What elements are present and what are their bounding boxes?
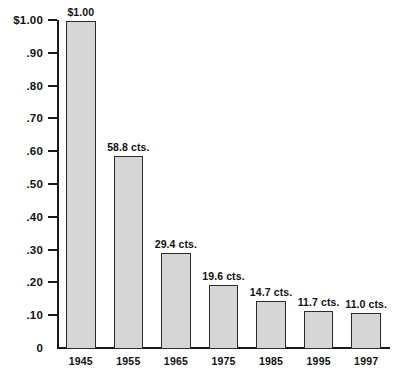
x-axis-tick-label: 1995: [307, 355, 331, 367]
y-axis-tick-label: .30: [26, 243, 48, 257]
bar: [351, 313, 380, 349]
bar: [161, 253, 190, 349]
y-axis-tick: .60: [0, 144, 57, 158]
y-axis-tick-label: .90: [26, 46, 48, 60]
bar-group: 11.0 cts.: [351, 20, 380, 349]
bar: [66, 21, 95, 349]
y-axis-tick-label: .70: [26, 111, 48, 125]
x-axis-tick-label: 1975: [211, 355, 235, 367]
bar-group: 58.8 cts.: [114, 20, 143, 349]
y-axis-tick-mark: [48, 249, 57, 251]
bar-value-label: 11.7 cts.: [298, 296, 340, 308]
y-axis-tick: .50: [0, 177, 57, 191]
bar-group: 11.7 cts.: [304, 20, 333, 349]
y-axis-tick-label: .10: [26, 308, 48, 322]
bar: [114, 156, 143, 349]
y-axis-tick: $1.00: [0, 13, 57, 27]
bar-value-label: 58.8 cts.: [107, 141, 149, 153]
y-axis-tick-label: .50: [26, 177, 48, 191]
y-axis-tick: .30: [0, 243, 57, 257]
x-axis-tick-label: 1997: [354, 355, 378, 367]
bar-group: $1.00: [66, 20, 95, 349]
y-axis-tick-label: $1.00: [13, 13, 48, 27]
y-axis-tick: .10: [0, 308, 57, 322]
bar: [209, 285, 238, 349]
bar-value-label: 14.7 cts.: [250, 286, 292, 298]
y-axis-tick-mark: [48, 314, 57, 316]
y-axis-tick-mark: [48, 281, 57, 283]
y-axis-tick: .80: [0, 79, 57, 93]
x-axis-labels: 1945195519651975198519951997: [57, 355, 390, 371]
y-axis-tick-mark: [48, 150, 57, 152]
y-axis-tick-mark: [48, 19, 57, 21]
x-axis-tick-label: 1965: [164, 355, 188, 367]
x-axis-tick-label: 1945: [69, 355, 93, 367]
y-axis-tick-label: .80: [26, 79, 48, 93]
bar-value-label: 29.4 cts.: [155, 238, 197, 250]
y-axis-tick: 0: [0, 341, 57, 355]
bar-value-label: 11.0 cts.: [345, 298, 387, 310]
bar: [256, 301, 285, 349]
y-axis-tick: .40: [0, 210, 57, 224]
y-axis-tick-label: .20: [26, 275, 48, 289]
y-axis-tick-mark: [48, 347, 57, 349]
y-axis-tick: .90: [0, 46, 57, 60]
y-axis-tick: .70: [0, 111, 57, 125]
plot-area: $1.0058.8 cts.29.4 cts.19.6 cts.14.7 cts…: [57, 20, 390, 349]
y-axis-tick-mark: [48, 216, 57, 218]
y-axis-tick-mark: [48, 117, 57, 119]
y-axis-tick-label: .60: [26, 144, 48, 158]
y-axis-tick-mark: [48, 183, 57, 185]
bar-group: 29.4 cts.: [161, 20, 190, 349]
bar-group: 14.7 cts.: [256, 20, 285, 349]
bar-group: 19.6 cts.: [209, 20, 238, 349]
y-axis-tick-mark: [48, 85, 57, 87]
x-axis-tick-label: 1985: [259, 355, 283, 367]
bar-chart: $1.00.90.80.70.60.50.40.30.20.100 $1.005…: [0, 0, 406, 388]
bar-value-label: 19.6 cts.: [202, 270, 244, 282]
y-axis-tick: .20: [0, 275, 57, 289]
y-axis-tick-mark: [48, 52, 57, 54]
x-axis-tick-label: 1955: [116, 355, 140, 367]
y-axis-tick-label: .40: [26, 210, 48, 224]
bar: [304, 311, 333, 349]
y-axis-tick-label: 0: [36, 341, 48, 355]
bar-value-label: $1.00: [67, 6, 94, 18]
